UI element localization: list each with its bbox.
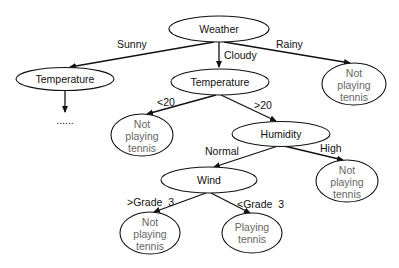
edge-label-sunny: Sunny [117,38,148,50]
node-weather: Weather [169,16,269,42]
leaf-line: playing [337,79,370,91]
continuation-dots: ...... [56,114,74,126]
leaf-line: tennis [340,91,368,103]
leaf-line: playing [133,228,166,240]
edge-label-gt-grade: >Grade 3 [127,196,174,208]
edge-label-gt20: >20 [254,99,272,111]
node-temperature-middle-label: Temperature [191,76,250,88]
leaf-high-not-playing: Not playing tennis [316,160,378,202]
node-wind-label: Wind [197,174,221,186]
leaf-line: tennis [238,233,266,245]
node-wind: Wind [161,167,257,193]
decision-tree-diagram: Sunny Cloudy Rainy <20 >20 Normal High >… [0,0,399,268]
node-weather-label: Weather [199,23,239,35]
edge-label-cloudy: Cloudy [224,49,257,61]
leaf-line: Not [346,67,362,79]
edge-label-rainy: Rainy [276,38,304,50]
leaf-line: tennis [136,240,164,252]
leaf-lt-grade-playing: Playing tennis [222,213,282,253]
leaf-line: playing [125,130,158,142]
leaf-gt-grade-not-playing: Not playing tennis [120,212,180,254]
edge-label-normal: Normal [205,145,239,157]
node-temperature-left: Temperature [16,68,114,91]
leaf-line: Playing [235,221,270,233]
leaf-line: tennis [333,188,361,200]
node-humidity-label: Humidity [261,128,303,140]
node-temperature-left-label: Temperature [36,73,95,85]
edge-label-lt-grade: <Grade 3 [237,198,284,210]
leaf-line: Not [339,164,355,176]
node-temperature-middle: Temperature [171,69,269,95]
leaf-rainy-not-playing: Not playing tennis [322,63,386,105]
leaf-line: tennis [128,142,156,154]
leaf-line: Not [142,216,158,228]
edge-label-lt20: <20 [157,96,175,108]
leaf-line: Not [134,118,150,130]
leaf-lt20-not-playing: Not playing tennis [111,114,173,156]
leaf-line: playing [330,176,363,188]
edge-label-high: High [320,142,342,154]
node-humidity: Humidity [232,122,330,147]
